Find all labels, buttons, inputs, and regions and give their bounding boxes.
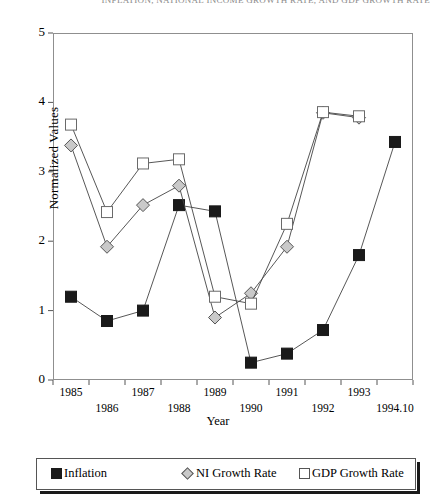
data-point-filled-square [318, 325, 329, 336]
series-inflation [66, 136, 401, 368]
data-point-filled-square [354, 250, 365, 261]
legend-item-gdp-growth-rate: GDP Growth Rate [299, 466, 404, 481]
open-square-icon [299, 468, 310, 479]
data-point-filled-square [246, 357, 257, 368]
data-point-diamond [137, 199, 150, 212]
data-point-open-square [246, 298, 257, 309]
legend-label: GDP Growth Rate [312, 466, 404, 481]
data-point-diamond [65, 139, 78, 152]
chart-plot [0, 0, 436, 503]
data-point-diamond [101, 240, 114, 253]
legend-item-ni-growth-rate: NI Growth Rate [181, 466, 277, 481]
data-point-open-square [174, 154, 185, 165]
data-point-filled-square [210, 206, 221, 217]
data-point-open-square [102, 207, 113, 218]
chart-legend: Inflation NI Growth Rate GDP Growth Rate [36, 458, 416, 490]
data-point-filled-square [138, 305, 149, 316]
data-point-open-square [318, 107, 329, 118]
chart-page: INFLATION, NATIONAL INCOME GROWTH RATE, … [0, 0, 436, 503]
legend-label: Inflation [64, 466, 107, 481]
data-point-filled-square [66, 291, 77, 302]
data-point-open-square [210, 291, 221, 302]
data-point-filled-square [282, 348, 293, 359]
data-point-filled-square [390, 136, 401, 147]
data-point-diamond [209, 311, 222, 324]
filled-square-icon [51, 468, 62, 479]
data-point-open-square [66, 119, 77, 130]
data-point-open-square [138, 158, 149, 169]
series-line [71, 142, 395, 363]
data-point-filled-square [102, 316, 113, 327]
data-point-open-square [282, 218, 293, 229]
data-point-open-square [354, 111, 365, 122]
legend-label: NI Growth Rate [196, 466, 277, 481]
data-point-diamond [173, 179, 186, 192]
legend-item-inflation: Inflation [51, 466, 107, 481]
data-point-diamond [281, 240, 294, 253]
diamond-icon [181, 467, 194, 480]
